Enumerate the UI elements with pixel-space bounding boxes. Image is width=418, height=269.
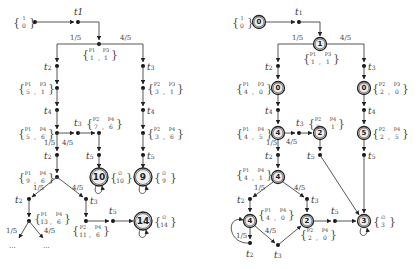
state-10: 10 <box>90 168 108 186</box>
svg-text:t3: t3 <box>274 250 282 260</box>
svg-text:4/5: 4/5 <box>286 138 297 146</box>
svg-text:,: , <box>252 174 254 181</box>
t1-label: t1 <box>74 7 83 17</box>
svg-text:t3: t3 <box>74 118 82 128</box>
svg-text:,: , <box>163 88 165 95</box>
svg-text:t5: t5 <box>147 151 155 161</box>
svg-text:14: 14 <box>137 216 150 226</box>
svg-text:,: , <box>388 133 390 140</box>
marking-r-final: { ∅ 3 } <box>373 214 396 228</box>
svg-text:1: 1 <box>170 88 174 95</box>
svg-text:4/5: 4/5 <box>72 184 83 192</box>
svg-text:P1: P1 <box>265 207 272 213</box>
svg-text:1/5: 1/5 <box>44 139 55 147</box>
svg-text:P2: P2 <box>307 227 314 233</box>
svg-text:P1: P1 <box>310 51 317 57</box>
svg-text:1: 1 <box>326 58 330 65</box>
ellipsis-right: ... <box>43 242 50 250</box>
svg-text:t2: t2 <box>265 62 273 72</box>
svg-text:14: 14 <box>160 221 168 228</box>
marking-r-p2p4-2-5: { P2P4 2 , 5 } <box>372 126 409 140</box>
svg-text:13: 13 <box>40 218 48 225</box>
diagram-canvas: { 1 0 } t1 1/5 4/5 { P1 P3 1 , 1 } t2 <box>0 0 418 269</box>
svg-text:t2: t2 <box>246 249 254 259</box>
svg-text:P4: P4 <box>169 126 176 132</box>
svg-text:1: 1 <box>240 15 243 21</box>
svg-text:2: 2 <box>308 234 312 241</box>
svg-text:3: 3 <box>362 217 367 225</box>
svg-text:1: 1 <box>41 88 45 95</box>
svg-text:P2: P2 <box>154 81 161 87</box>
svg-text:t5: t5 <box>368 151 376 161</box>
svg-text:0: 0 <box>22 22 26 29</box>
svg-text:1/5: 1/5 <box>6 227 17 235</box>
svg-text:}: } <box>402 127 409 140</box>
marking-p1p3-1-1: { P1 P3 1 , 1 } <box>82 47 118 61</box>
svg-text:,: , <box>34 88 36 95</box>
marking-p1p4-13-6: { P1P4 13 , 6 } <box>34 211 71 225</box>
svg-text:P3: P3 <box>325 51 332 57</box>
svg-text:}: } <box>103 224 110 237</box>
svg-text:t3: t3 <box>311 195 319 205</box>
marking-r-p2p4-2-0: { P2P4 2 , 0 } <box>300 227 337 241</box>
svg-text:6: 6 <box>170 133 174 140</box>
svg-text:}: } <box>338 117 345 130</box>
svg-text:t4: t4 <box>147 106 155 116</box>
svg-text:P3: P3 <box>103 47 110 53</box>
svg-text:6: 6 <box>109 123 113 130</box>
svg-text:4: 4 <box>244 133 248 140</box>
marking-empty-9: { ∅ 9 } <box>154 170 177 184</box>
svg-text:}: } <box>402 82 409 95</box>
svg-text:}: } <box>126 171 133 184</box>
svg-text:∅: ∅ <box>162 170 166 176</box>
svg-text:t1: t1 <box>295 7 302 17</box>
svg-text:1/5: 1/5 <box>254 184 265 192</box>
state-init: 0 <box>253 16 266 29</box>
svg-text:P2: P2 <box>154 126 161 132</box>
left-initial-marking: { 1 0 } <box>13 15 36 29</box>
svg-text:10: 10 <box>116 177 124 184</box>
svg-text:9: 9 <box>162 177 166 184</box>
svg-text:10: 10 <box>93 172 106 182</box>
svg-text:{: { <box>72 224 79 237</box>
svg-text:0: 0 <box>362 84 367 92</box>
svg-text:∅: ∅ <box>118 170 122 176</box>
svg-text:}: } <box>177 82 184 95</box>
marking-r-p1p3-1-1: { P1P3 1 , 1 } <box>303 51 340 65</box>
svg-text:2: 2 <box>305 217 310 225</box>
state-left4: 4 <box>244 215 257 228</box>
svg-text:,: , <box>98 54 100 61</box>
svg-text:{: { <box>232 16 239 29</box>
svg-text:{: { <box>373 215 380 228</box>
svg-text:1: 1 <box>22 15 25 21</box>
svg-text:P4: P4 <box>95 224 102 230</box>
svg-text:4/5: 4/5 <box>340 34 351 42</box>
marking-empty-14: { ∅ 14 } <box>154 214 177 228</box>
svg-text:4: 4 <box>248 217 253 225</box>
state-mid4: 2 <box>301 215 314 228</box>
svg-text:4/5: 4/5 <box>265 227 276 235</box>
svg-text:P3: P3 <box>394 81 401 87</box>
svg-text:0: 0 <box>257 18 262 26</box>
svg-text:3: 3 <box>381 221 385 228</box>
svg-text:P4: P4 <box>108 116 115 122</box>
svg-text:9: 9 <box>26 177 30 184</box>
svg-text:0: 0 <box>281 214 285 221</box>
svg-text:}: } <box>266 168 273 181</box>
svg-text:}: } <box>389 215 396 228</box>
svg-text:,: , <box>274 214 276 221</box>
svg-text:P4: P4 <box>40 126 47 132</box>
marking-p2p3-3-1: { P2P3 3 , 1 } <box>147 81 184 95</box>
svg-text:P1: P1 <box>243 81 250 87</box>
svg-text:,: , <box>324 123 326 130</box>
svg-text:P4: P4 <box>40 170 47 176</box>
svg-text:{: { <box>154 171 161 184</box>
svg-text:P1: P1 <box>25 81 32 87</box>
marking-p2p4-11-6: { P2P4 11 , 6 } <box>72 224 110 238</box>
svg-text:,: , <box>163 133 165 140</box>
svg-text:,: , <box>388 88 390 95</box>
svg-text:4/5: 4/5 <box>294 184 305 192</box>
svg-text:t3: t3 <box>296 118 304 128</box>
svg-text:P4: P4 <box>258 167 265 173</box>
svg-text:P4: P4 <box>258 126 265 132</box>
